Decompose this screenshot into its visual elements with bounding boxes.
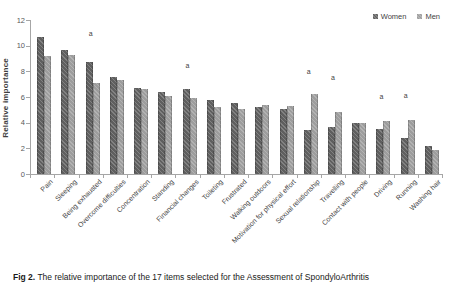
category-label: Standing [151, 178, 175, 202]
x-tick-mark [54, 175, 55, 178]
bar-men [68, 55, 75, 174]
x-tick-mark [127, 175, 128, 178]
bar-men [359, 123, 366, 174]
bar-men [141, 89, 148, 174]
y-tick-label: 6 [0, 93, 25, 102]
x-tick-mark [151, 175, 152, 178]
legend-label-men: Men [425, 12, 440, 21]
bar-women [61, 50, 68, 175]
bar-women [183, 89, 190, 174]
category-label: Running [394, 178, 417, 201]
category-label: Sexual relationship [274, 178, 321, 225]
bar-men [165, 96, 172, 174]
bar-men [262, 105, 269, 174]
bar-men [383, 121, 390, 174]
y-tick-mark [26, 20, 30, 21]
significance-marker: a [305, 68, 313, 75]
y-axis-line [30, 20, 31, 175]
x-tick-mark [297, 175, 298, 178]
bar-women [37, 37, 44, 174]
legend-item-women: Women [373, 12, 407, 21]
bar-women [352, 123, 359, 174]
bar-women [134, 88, 141, 174]
bar-women [207, 100, 214, 174]
y-tick-mark [26, 123, 30, 124]
significance-marker: a [377, 93, 385, 100]
bar-men [214, 107, 221, 174]
x-axis-line [30, 174, 443, 175]
legend-label-women: Women [381, 12, 407, 21]
y-tick-label: 8 [0, 67, 25, 76]
y-tick-label: 2 [0, 144, 25, 153]
bar-men [238, 109, 245, 175]
bar-men [432, 150, 439, 174]
figure-number: Fig 2. [13, 272, 35, 282]
x-tick-mark [442, 175, 443, 178]
bar-men [44, 56, 51, 174]
figure-caption: Fig 2. The relative importance of the 17… [13, 272, 451, 282]
x-tick-mark [248, 175, 249, 178]
bar-women [425, 146, 432, 174]
bar-women [86, 62, 93, 174]
legend: Women Men [373, 12, 440, 21]
bar-women [304, 130, 311, 174]
significance-marker: a [329, 74, 337, 81]
bar-chart: Relative importance 024681012 PainSleepi… [0, 0, 455, 283]
x-tick-mark [30, 175, 31, 178]
bar-men [93, 83, 100, 174]
y-tick-mark [26, 46, 30, 47]
women-swatch-icon [373, 14, 378, 19]
category-label: Toileting [201, 178, 224, 201]
significance-marker: a [402, 92, 410, 99]
bar-women [328, 127, 335, 175]
x-tick-mark [224, 175, 225, 178]
y-tick-label: 12 [0, 16, 25, 25]
x-tick-mark [272, 175, 273, 178]
bar-men [335, 112, 342, 174]
bar-men [117, 80, 124, 174]
y-tick-label: 4 [0, 118, 25, 127]
bar-men [311, 94, 318, 174]
y-tick-mark [26, 71, 30, 72]
category-label: Driving [373, 178, 393, 198]
bar-women [280, 109, 287, 175]
bar-women [231, 103, 238, 174]
category-label: Sleeping [54, 178, 78, 202]
bar-men [190, 98, 197, 174]
caption-text: The relative importance of the 17 items … [35, 272, 369, 282]
y-tick-label: 0 [0, 170, 25, 179]
legend-item-men: Men [417, 12, 440, 21]
x-tick-mark [345, 175, 346, 178]
bar-women [158, 92, 165, 174]
men-swatch-icon [417, 14, 422, 19]
bar-women [255, 107, 262, 174]
x-tick-mark [175, 175, 176, 178]
bar-women [110, 77, 117, 175]
x-tick-mark [79, 175, 80, 178]
y-tick-label: 10 [0, 41, 25, 50]
y-tick-mark [26, 97, 30, 98]
bar-women [376, 129, 383, 174]
bar-women [401, 138, 408, 174]
category-label: Contact with people [321, 178, 369, 226]
significance-marker: a [87, 30, 95, 37]
figure-page: Relative importance 024681012 PainSleepi… [0, 0, 455, 283]
bar-men [287, 106, 294, 174]
category-label: Pain [39, 178, 54, 193]
significance-marker: a [184, 62, 192, 69]
x-tick-mark [418, 175, 419, 178]
bar-men [408, 120, 415, 174]
y-tick-mark [26, 148, 30, 149]
x-tick-mark [200, 175, 201, 178]
x-tick-mark [394, 175, 395, 178]
x-tick-mark [103, 175, 104, 178]
x-tick-mark [369, 175, 370, 178]
x-tick-mark [321, 175, 322, 178]
